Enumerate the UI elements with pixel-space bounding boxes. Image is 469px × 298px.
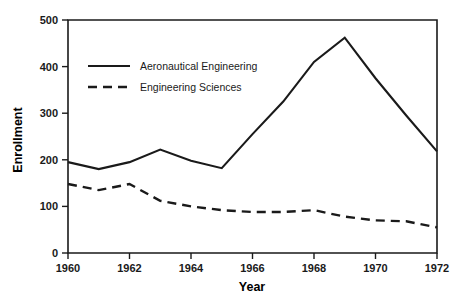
line-chart-plot: 0 100 200 300 400 500 1960 1962 1964 196… (0, 0, 469, 298)
x-tick-label-1966: 1966 (240, 262, 264, 274)
legend-item-aeronautical-engineering: Aeronautical Engineering (88, 60, 257, 72)
x-axis-title: Year (239, 280, 266, 294)
x-tick-label-1968: 1968 (302, 262, 326, 274)
y-tick-label-400: 400 (40, 61, 58, 73)
series-line-aeronautical-engineering (68, 38, 437, 169)
plot-frame (68, 20, 437, 253)
y-tick-label-100: 100 (40, 200, 58, 212)
legend-label-engineering-sciences: Engineering Sciences (140, 81, 242, 93)
y-axis-title: Enrollment (11, 107, 25, 173)
y-axis-ticks (62, 20, 68, 253)
chart-container: 0 100 200 300 400 500 1960 1962 1964 196… (0, 0, 469, 298)
y-tick-label-0: 0 (52, 247, 58, 259)
chart-legend: Aeronautical Engineering Engineering Sci… (88, 60, 257, 93)
series-line-engineering-sciences (68, 184, 437, 227)
x-axis-tick-labels: 1960 1962 1964 1966 1968 1970 1972 (56, 262, 449, 274)
x-tick-label-1972: 1972 (425, 262, 449, 274)
axis-frame-path (68, 20, 437, 253)
x-tick-label-1962: 1962 (117, 262, 141, 274)
y-tick-label-300: 300 (40, 107, 58, 119)
x-tick-label-1964: 1964 (179, 262, 204, 274)
legend-item-engineering-sciences: Engineering Sciences (88, 81, 242, 93)
x-tick-label-1970: 1970 (363, 262, 387, 274)
y-axis-tick-labels: 0 100 200 300 400 500 (40, 14, 58, 259)
y-tick-label-200: 200 (40, 154, 58, 166)
y-tick-label-500: 500 (40, 14, 58, 26)
x-axis-ticks (68, 253, 437, 259)
x-tick-label-1960: 1960 (56, 262, 80, 274)
legend-label-aeronautical-engineering: Aeronautical Engineering (140, 60, 257, 72)
